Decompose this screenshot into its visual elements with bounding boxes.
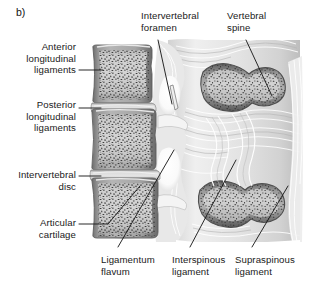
figure-panel: b) Anterior longitudinal ligaments Poste… [0, 0, 310, 288]
label-posterior-longitudinal-ligaments: Posterior longitudinal ligaments [0, 99, 76, 134]
label-vertebral-spine: Vertebral spine [227, 10, 303, 33]
label-ligamentum-flavum: Ligamentum flavum [101, 254, 175, 277]
label-supraspinous-ligament: Supraspinous ligament [235, 254, 310, 277]
label-interspinous-ligament: Interspinous ligament [172, 254, 242, 277]
vertebral-body-1 [93, 45, 152, 103]
label-articular-cartilage: Articular cartilage [0, 217, 76, 240]
vertebral-body-2 [92, 109, 156, 170]
label-intervertebral-disc: Intervertebral disc [0, 169, 76, 192]
panel-letter: b) [16, 6, 25, 18]
label-anterior-longitudinal-ligaments: Anterior longitudinal ligaments [0, 41, 76, 76]
label-intervertebral-foramen: Intervertebral foramen [141, 10, 223, 33]
vertebral-body-3 [92, 178, 158, 238]
